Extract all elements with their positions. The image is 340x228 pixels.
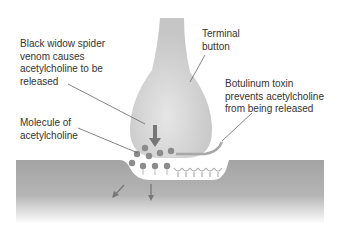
botulinum-label: Botulinum toxin prevents acetylcholine f… bbox=[225, 78, 324, 116]
terminal-button-label: Terminal button bbox=[202, 28, 240, 53]
terminal-button bbox=[130, 18, 212, 158]
black-widow-label: Black widow spider venom causes acetylch… bbox=[20, 38, 105, 88]
molecule-label: Molecule of acetylcholine bbox=[20, 117, 78, 142]
